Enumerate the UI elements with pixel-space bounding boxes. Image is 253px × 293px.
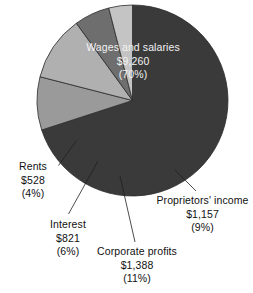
slice-label-name: Corporate profits (88, 245, 186, 259)
slice-label-corporate-profits: Corporate profits $1,388 (11%) (88, 245, 186, 286)
slice-label-wages-and-salaries: Wages and salaries $9,260 (70%) (68, 41, 198, 82)
slice-label-proprietors-income: Proprietors' income $1,157 (9%) (152, 194, 253, 235)
slice-label-percent: (70%) (68, 68, 198, 82)
slice-label-percent: (11%) (88, 272, 186, 286)
slice-label-rents: Rents $528 (4%) (2, 160, 64, 201)
slice-label-name: Rents (2, 160, 64, 174)
slice-label-percent: (9%) (152, 221, 253, 235)
slice-label-value: $9,260 (68, 55, 198, 69)
slice-label-percent: (4%) (2, 187, 64, 201)
slice-label-name: Wages and salaries (68, 41, 198, 55)
slice-label-name: Interest (32, 218, 104, 232)
slice-label-value: $1,157 (152, 208, 253, 222)
slice-label-name: Proprietors' income (152, 194, 253, 208)
slice-label-value: $528 (2, 174, 64, 188)
slice-label-value: $1,388 (88, 259, 186, 273)
pie-chart: Wages and salaries $9,260 (70%) Rents $5… (0, 0, 253, 293)
slice-label-value: $821 (32, 232, 104, 246)
